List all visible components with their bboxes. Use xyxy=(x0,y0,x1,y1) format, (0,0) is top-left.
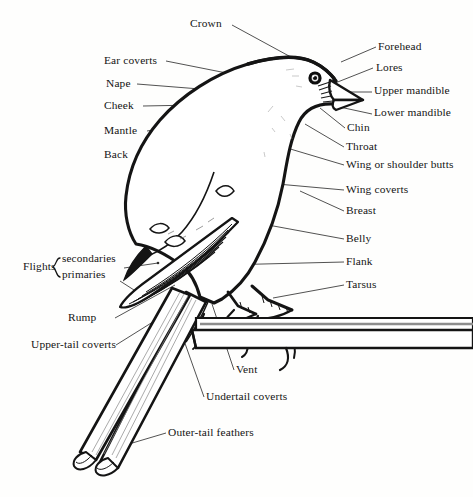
label-mantle: Mantle xyxy=(104,125,137,137)
leader-breast xyxy=(300,191,344,211)
leader-throat xyxy=(305,124,344,147)
bird-anatomy-diagram: Crown Forehead Lores Upper mandible Lowe… xyxy=(0,0,473,497)
label-lower-mandible: Lower mandible xyxy=(374,107,451,119)
label-cheek: Cheek xyxy=(104,100,134,112)
label-undertail-coverts: Undertail coverts xyxy=(206,391,287,403)
label-upper-tail-coverts: Upper-tail coverts xyxy=(31,339,116,351)
label-chin: Chin xyxy=(347,122,370,134)
label-wing-coverts: Wing coverts xyxy=(346,184,408,196)
label-rump: Rump xyxy=(68,312,96,324)
label-breast: Breast xyxy=(346,205,376,217)
label-back: Back xyxy=(104,149,128,161)
tail-upper-feather xyxy=(100,292,206,468)
upper-mandible-shape xyxy=(329,80,363,100)
label-upper-mandible: Upper mandible xyxy=(374,85,450,97)
label-wing-or-shoulder-butts: Wing or shoulder butts xyxy=(346,159,454,171)
label-forehead: Forehead xyxy=(378,41,422,53)
bird-illustration xyxy=(0,0,473,497)
leader-primaries xyxy=(120,281,134,290)
label-crown: Crown xyxy=(190,18,222,30)
label-outer-tail-feathers: Outer-tail feathers xyxy=(168,427,254,439)
label-primaries: primaries xyxy=(62,269,106,281)
label-flank: Flank xyxy=(346,256,373,268)
secondaries-wedge xyxy=(124,246,152,280)
label-vent: Vent xyxy=(236,364,257,376)
bird-body-outline xyxy=(125,57,334,303)
label-lores: Lores xyxy=(376,62,403,74)
leader-forehead xyxy=(341,47,376,62)
leader-belly xyxy=(268,225,344,239)
leader-chin xyxy=(320,108,345,128)
label-secondaries: secondaries xyxy=(62,253,116,265)
label-ear-coverts: Ear coverts xyxy=(104,55,157,67)
label-flights: Flights xyxy=(23,261,56,273)
perch-twig xyxy=(280,348,288,370)
label-belly: Belly xyxy=(346,233,371,245)
label-tarsus: Tarsus xyxy=(346,279,376,291)
eye-glint xyxy=(312,75,314,77)
label-nape: Nape xyxy=(106,78,131,90)
leader-tarsus xyxy=(273,285,344,298)
label-throat: Throat xyxy=(346,141,377,153)
leader-wing-shoulder-butts xyxy=(287,148,344,165)
perch-front-face xyxy=(192,330,473,348)
